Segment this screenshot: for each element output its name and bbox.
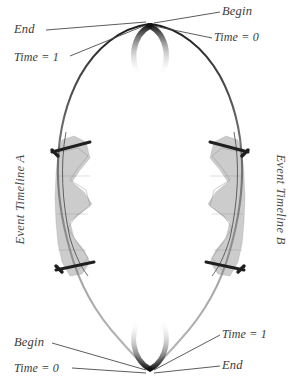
leader-time0-bot [72,368,146,373]
axis-label-event-timeline-a: Event Timeline A [13,140,28,260]
bottom-apex-right [150,325,166,369]
annotation-time-0-top: Time = 0 [214,30,259,45]
annotation-time-1-top: Time = 1 [14,50,59,65]
annotation-end-bottom: End [222,358,243,373]
annotation-time-1-bottom: Time = 1 [222,327,267,342]
annotation-begin-top: Begin [222,4,252,19]
axis-label-event-timeline-b: Event Timeline B [273,140,288,260]
bottom-apex-left [134,325,150,369]
leader-end-bot [154,366,220,373]
annotation-begin-bottom: Begin [14,335,44,350]
annotation-time-0-bottom: Time = 0 [14,361,59,376]
annotation-end-top: End [14,22,35,37]
leader-begin-top [154,12,220,23]
timeline-figure: End Time = 1 Begin Time = 0 Begin Time =… [0,0,300,387]
top-apex-right [150,26,166,70]
top-apex-left [134,26,150,70]
